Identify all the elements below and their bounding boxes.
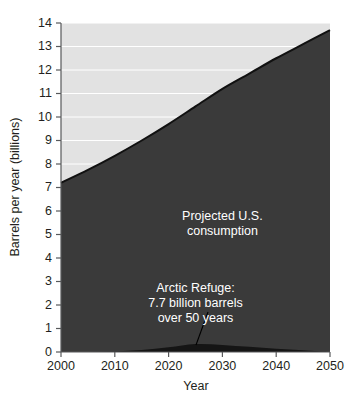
y-tick-label: 3 — [45, 274, 52, 288]
y-tick-label: 1 — [45, 321, 52, 335]
x-tick-label: 2040 — [262, 359, 290, 373]
arctic-annotation-line: over 50 years — [158, 311, 234, 325]
chart-figure: 01234567891011121314 2000201020202030204… — [0, 0, 356, 406]
y-tick-label: 14 — [38, 16, 52, 30]
x-tick-label: 2020 — [155, 359, 183, 373]
consumption-annotation-line: Projected U.S. — [182, 209, 263, 223]
y-tick-label: 12 — [38, 63, 52, 77]
arctic-annotation-line: Arctic Refuge: — [156, 281, 235, 295]
x-tick-label: 2030 — [208, 359, 236, 373]
x-tick-label: 2000 — [47, 359, 75, 373]
y-tick-label: 9 — [45, 133, 52, 147]
x-tick-label: 2010 — [101, 359, 129, 373]
y-tick-label: 7 — [45, 180, 52, 194]
x-axis-title: Year — [183, 379, 208, 393]
arctic-annotation-line: 7.7 billion barrels — [148, 296, 243, 310]
y-tick-label: 4 — [45, 251, 52, 265]
y-tick-label: 10 — [38, 110, 52, 124]
area-chart: 01234567891011121314 2000201020202030204… — [0, 0, 356, 406]
x-tick-label: 2050 — [316, 359, 344, 373]
x-axis-ticks: 200020102020203020402050 — [47, 352, 344, 373]
y-tick-label: 13 — [38, 39, 52, 53]
y-tick-label: 11 — [39, 86, 52, 100]
y-tick-label: 0 — [45, 345, 52, 359]
consumption-annotation-line: consumption — [187, 224, 258, 238]
y-tick-label: 2 — [45, 298, 52, 312]
y-tick-label: 6 — [45, 204, 52, 218]
y-tick-label: 5 — [45, 227, 52, 241]
y-axis-title: Barrels per year (billions) — [8, 118, 22, 257]
y-tick-label: 8 — [45, 157, 52, 171]
y-axis-ticks: 01234567891011121314 — [38, 16, 61, 359]
